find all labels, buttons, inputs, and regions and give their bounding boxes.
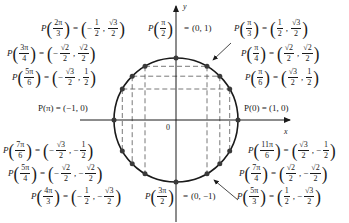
label-p-3pi-4: P(3π4) = (−√22,√22) — [7, 44, 95, 63]
label-p-5pi-3: P(5π3) = (12,−√32) — [237, 187, 321, 206]
label-p-5pi-4: P(5π4) = (−√22,−√22) — [8, 164, 103, 183]
origin-label: 0 — [166, 123, 170, 132]
label-p-7pi-6: P(7π6) = (−√32,−12) — [3, 141, 93, 160]
label-p-pi: P(π) = (−1, 0) — [38, 104, 88, 113]
label-p-2pi-3: P(2π3) = (−12,√32) — [41, 19, 125, 38]
label-p-5pi-6: P(5π6) = (−√32,12) — [12, 68, 96, 87]
label-p-11pi-6: P(11π6) = (√32,−12) — [248, 141, 336, 160]
label-p-pi-4: P(π4) = (√22,√22) — [241, 44, 319, 63]
label-p-pi-3: P(π3) = (12,√32) — [234, 19, 308, 38]
x-axis-label: x — [284, 127, 288, 136]
pointer-5pi3 — [214, 180, 238, 200]
label-p-4pi-3: P(4π3) = (−12,−√32) — [31, 187, 121, 206]
pointer-pi3 — [213, 43, 231, 60]
label-p-3pi-2: P(3π2) = (0, −1) — [145, 187, 216, 206]
label-p-pi-2: P(π2) = (0, 1) — [148, 19, 211, 38]
label-p-7pi-4: P(7π4) = (√22,−√22) — [239, 164, 327, 183]
label-p-pi-6: P(π6) = (√32,12) — [245, 68, 319, 87]
label-p-0: P(0) = (1, 0) — [244, 104, 289, 113]
y-axis-label: y — [183, 2, 187, 11]
